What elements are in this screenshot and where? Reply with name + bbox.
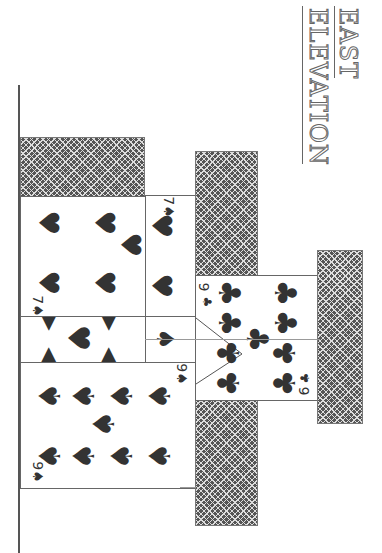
- card-seven-of-spades: ♥ ♥ ♥ ♥ ♥ 7♠: [20, 196, 146, 318]
- spade-pip-icon: ▲: [41, 343, 56, 363]
- spade-pip-icon: ♠: [35, 383, 65, 410]
- card-seven-of-spades-side: 7♠ ♥ ♥: [145, 195, 197, 317]
- club-pip-icon: ♣: [270, 340, 300, 367]
- title-east: EAST: [334, 8, 362, 79]
- spade-pip-icon: ▲: [101, 316, 116, 335]
- card-partial-spades: ▲ ▲ ♥ ▲ ▲: [20, 316, 146, 364]
- spade-pip-icon: ♥: [63, 325, 93, 352]
- spade-pip-icon: ♥: [90, 270, 118, 295]
- card-index: 7♠: [31, 295, 45, 316]
- card-index: 9♠: [31, 461, 45, 482]
- spade-pip-icon: ♠: [69, 383, 99, 410]
- guide-line: [145, 339, 320, 340]
- spade-pip-icon: ♠: [107, 443, 137, 470]
- title-east-underline: [334, 6, 335, 78]
- spade-pip-icon: ♠: [107, 383, 137, 410]
- guide-line: [180, 487, 196, 488]
- club-pip-icon: ♣: [270, 310, 300, 337]
- card-index: 6: [297, 387, 311, 396]
- club-pip-icon: ♣: [299, 373, 311, 384]
- card-index: 9♠: [175, 363, 189, 384]
- card-nine-of-clubs: 9 ♣ ♣ ♣ ♣ ♣ ♣ ♣ ♣ ♣ ♣ ♣ 6: [195, 275, 319, 401]
- card-back-top-left: [20, 137, 145, 197]
- title-elevation: ELEVATION: [304, 8, 332, 166]
- spade-pip-icon: ♠: [145, 383, 175, 410]
- card-nine-of-spades: 9♠ ♠ ♠ ♠ ♠ ♠ ♠ ♠ ♠ ♠ 9♠: [20, 362, 196, 489]
- spade-pip-icon: ▲: [41, 316, 56, 335]
- spade-pip-icon: ♠: [145, 443, 175, 470]
- title-elevation-underline: [302, 6, 303, 164]
- card-partial-side-spade: ♠: [145, 316, 197, 364]
- spade-pip-icon: ♥: [147, 213, 175, 238]
- club-pip-icon: ♣: [270, 280, 300, 307]
- spade-pip-icon: ♥: [34, 270, 62, 295]
- spade-pip-icon: ♥: [34, 210, 62, 235]
- card-back-middle-bottom: [195, 400, 258, 526]
- spade-pip-icon: ♥: [116, 232, 144, 257]
- club-pip-icon: ♣: [214, 370, 244, 397]
- card-back-middle-top: [195, 151, 258, 276]
- card-back-right: [317, 250, 363, 424]
- spade-pip-icon: ♠: [89, 411, 119, 438]
- spade-pip-icon: ♠: [69, 443, 99, 470]
- spade-pip-icon: ♥: [147, 273, 175, 298]
- club-pip-icon: ♣: [214, 280, 244, 307]
- spade-pip-icon: ▲: [101, 343, 116, 363]
